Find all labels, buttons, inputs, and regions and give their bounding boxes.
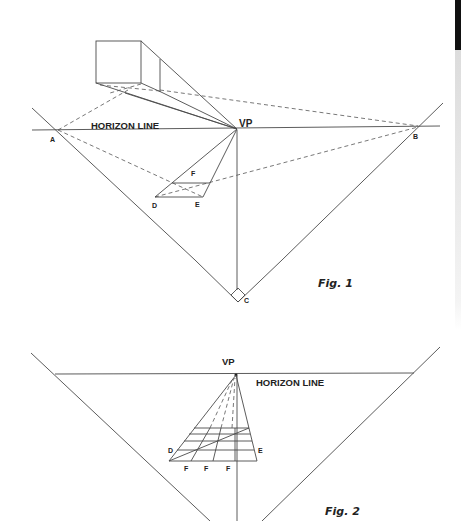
point-f2c-label: F bbox=[226, 465, 231, 472]
line-d-to-vp bbox=[155, 129, 237, 197]
figure-2-caption: Fig. 2 bbox=[325, 505, 360, 518]
horizon-label-1: HORIZON LINE bbox=[91, 120, 159, 131]
figure-2: VP HORIZON LINE D E F F F Fig. 2 bbox=[31, 347, 440, 521]
point-d2-label: D bbox=[168, 447, 173, 454]
dash-cube-to-b bbox=[160, 90, 418, 126]
point-f-label: F bbox=[191, 170, 196, 177]
perspective-diagram-page: HORIZON LINE VP A B C D E F Fig. 1 bbox=[0, 0, 461, 521]
point-a-label: A bbox=[50, 136, 55, 143]
grid-left-edge bbox=[169, 375, 236, 461]
page-edge-shadow bbox=[455, 50, 461, 330]
dash-a-to-e bbox=[58, 130, 203, 197]
point-f2b-label: F bbox=[204, 465, 209, 472]
line-e-to-vp bbox=[203, 129, 237, 197]
point-d-label: D bbox=[152, 202, 157, 209]
grid-col-1-dash bbox=[210, 378, 233, 428]
vp-label-2: VP bbox=[222, 356, 235, 367]
point-f2a-label: F bbox=[184, 465, 189, 472]
cube-bottom-dash-1 bbox=[100, 85, 160, 91]
figure-1-caption: Fig. 1 bbox=[318, 277, 353, 290]
diagram-canvas: HORIZON LINE VP A B C D E F Fig. 1 bbox=[0, 0, 461, 521]
dash-d-to-b bbox=[155, 127, 418, 197]
right-angle-marker bbox=[231, 288, 245, 302]
cube-edge-to-vp bbox=[161, 92, 237, 129]
point-e-label: E bbox=[195, 201, 200, 208]
figure-1: HORIZON LINE VP A B C D E F Fig. 1 bbox=[32, 41, 443, 304]
grid-right-edge bbox=[236, 375, 257, 461]
page-edge-tab bbox=[455, 0, 461, 50]
vp-label-1: VP bbox=[239, 118, 253, 129]
horizon-label-2: HORIZON LINE bbox=[256, 377, 324, 388]
horizon-line-2 bbox=[55, 373, 414, 374]
grid-col-2 bbox=[213, 428, 221, 461]
point-e2-label: E bbox=[258, 447, 263, 454]
point-b-label: B bbox=[413, 133, 418, 140]
grid-col-1 bbox=[191, 428, 210, 461]
cube-edge-top bbox=[141, 41, 237, 129]
point-c-label: C bbox=[244, 297, 249, 304]
cube-front-face bbox=[96, 41, 141, 83]
left-diagonal-2 bbox=[31, 353, 210, 521]
